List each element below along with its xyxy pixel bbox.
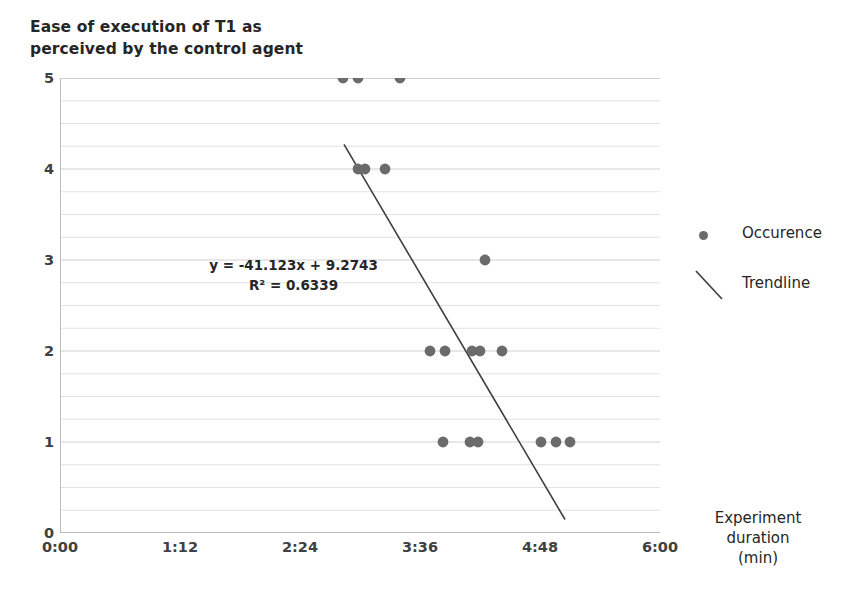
data-point — [475, 346, 486, 357]
x-tick-label-1: 1:12 — [162, 540, 198, 555]
y-tick-label-2: 2 — [28, 344, 54, 359]
chart-legend: Occurence Trendline — [690, 222, 850, 314]
scatter-chart: Ease of execution of T1 as perceived by … — [0, 0, 855, 612]
trendline-equation-annotation: y = -41.123x + 9.2743 R² = 0.6339 — [186, 255, 401, 295]
y-tick-label-3: 3 — [28, 253, 54, 268]
plot-area — [60, 78, 660, 533]
legend-item-occurence[interactable]: Occurence — [690, 222, 850, 268]
legend-marker-line — [690, 268, 734, 296]
minor-gridlines — [60, 101, 660, 511]
y-tick-label-4: 4 — [28, 162, 54, 177]
y-tick-label-1: 1 — [28, 435, 54, 450]
legend-label-trendline: Trendline — [742, 274, 810, 292]
x-tick-label-4: 4:48 — [522, 540, 558, 555]
trendline-equation: y = -41.123x + 9.2743 — [186, 255, 401, 275]
chart-title: Ease of execution of T1 as perceived by … — [30, 16, 450, 60]
y-axis-tick-labels: 5 4 3 2 1 0 — [22, 78, 54, 533]
data-point — [360, 164, 371, 175]
x-axis-tick-labels: 0:00 1:12 2:24 3:36 4:48 6:00 — [60, 540, 660, 564]
data-point — [395, 78, 406, 83]
legend-item-trendline[interactable]: Trendline — [690, 268, 850, 314]
x-axis-title: Experiment duration (min) — [668, 508, 848, 568]
data-point — [425, 346, 436, 357]
data-point — [536, 437, 547, 448]
data-point — [440, 346, 451, 357]
data-point — [338, 78, 349, 83]
trendline — [344, 144, 565, 519]
x-tick-label-2: 2:24 — [282, 540, 318, 555]
x-tick-label-0: 0:00 — [42, 540, 78, 555]
legend-marker-dot — [690, 222, 734, 250]
plot-svg — [60, 78, 660, 533]
y-tick-label-5: 5 — [28, 71, 54, 86]
data-point — [438, 437, 449, 448]
data-point — [565, 437, 576, 448]
data-point — [473, 437, 484, 448]
data-point — [353, 78, 364, 83]
data-point — [480, 255, 491, 266]
data-point — [497, 346, 508, 357]
data-point — [380, 164, 391, 175]
data-point — [551, 437, 562, 448]
legend-label-occurence: Occurence — [742, 224, 822, 242]
trendline-r-squared: R² = 0.6339 — [186, 275, 401, 295]
x-tick-label-3: 3:36 — [402, 540, 438, 555]
